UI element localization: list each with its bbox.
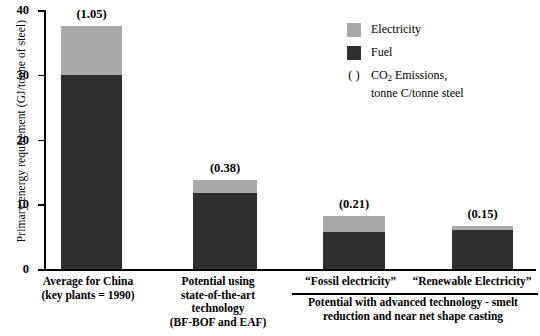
bar-value-label: (0.38)	[210, 161, 240, 176]
y-axis-line	[44, 10, 46, 269]
y-tick-10: 10	[38, 204, 44, 206]
x-label-fossil-electricity: “Fossil electricity”	[288, 275, 413, 289]
bar-value-label: (1.05)	[76, 7, 106, 22]
bar-segment-fuel	[193, 193, 257, 269]
legend-swatch-electricity-icon	[347, 23, 361, 37]
bar-segment-electricity	[61, 26, 122, 75]
legend-label-fuel: Fuel	[371, 45, 392, 60]
x-label-line1: “Renewable Electricity”	[404, 275, 540, 289]
legend-label-co2-emissions: CO2 Emissions, tonne C/tonne steel	[371, 68, 464, 101]
legend-entry-co2-note: ( ) CO2 Emissions, tonne C/tonne steel	[347, 68, 464, 101]
y-tick-label-30: 30	[17, 67, 30, 82]
y-tick-30: 30	[38, 75, 44, 77]
bar-segment-fuel	[61, 75, 122, 269]
x-axis-line	[44, 269, 536, 271]
bar-value-label: (0.21)	[339, 197, 369, 212]
legend-entry-fuel: Fuel	[347, 45, 464, 60]
parentheses-icon: ( )	[347, 68, 361, 83]
legend-entry-electricity: Electricity	[347, 22, 464, 37]
bar-average-for-china[interactable]: (1.05)	[61, 26, 122, 269]
x-axis-labels: Average for China (key plants = 1990) Po…	[0, 273, 540, 336]
group-caption: Potential with advanced technology - sme…	[286, 296, 540, 323]
x-label-line1: “Fossil electricity”	[288, 275, 413, 289]
group-caption-line1: Potential with advanced technology - sme…	[286, 296, 540, 310]
bar-fossil-electricity[interactable]: (0.21)	[323, 216, 385, 269]
legend-co2-text-a: CO	[371, 68, 388, 82]
y-axis-title: Primary energy requirement (GJ/tonne of …	[15, 6, 27, 256]
legend-co2-text-line2: tonne C/tonne steel	[371, 86, 464, 100]
bar-value-label: (0.15)	[467, 207, 497, 222]
group-caption-line2: reduction and near net shape casting	[286, 310, 540, 324]
group-underline	[292, 293, 538, 295]
y-tick-label-20: 20	[17, 132, 30, 147]
energy-requirement-bar-chart: Primary energy requirement (GJ/tonne of …	[0, 0, 540, 336]
bar-state-of-the-art[interactable]: (0.38)	[193, 180, 257, 269]
bar-segment-fuel	[452, 230, 513, 269]
y-tick-40: 40	[38, 10, 44, 12]
bar-segment-fuel	[323, 232, 385, 269]
legend: Electricity Fuel ( ) CO2 Emissions, tonn…	[347, 22, 464, 109]
bar-segment-electricity	[193, 180, 257, 193]
x-label-renewable-electricity: “Renewable Electricity”	[404, 275, 540, 289]
legend-co2-text-b: Emissions,	[392, 68, 447, 82]
y-tick-label-10: 10	[17, 197, 30, 212]
bar-renewable-electricity[interactable]: (0.15)	[452, 226, 513, 269]
legend-swatch-fuel-icon	[347, 46, 361, 60]
y-tick-0: 0	[38, 269, 44, 271]
y-tick-label-40: 40	[17, 3, 30, 18]
legend-label-electricity: Electricity	[371, 22, 421, 37]
y-tick-20: 20	[38, 140, 44, 142]
bar-segment-electricity	[323, 216, 385, 232]
